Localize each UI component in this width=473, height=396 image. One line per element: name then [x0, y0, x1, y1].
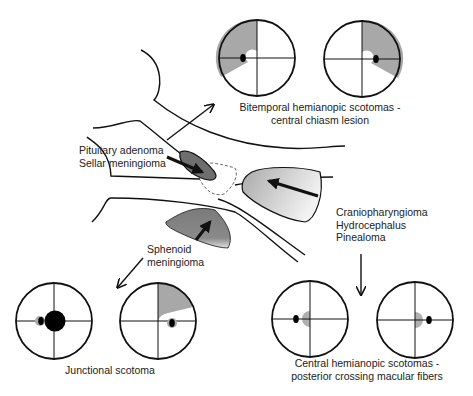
visual-field-diagram: Bitemporal hemianopic scotomas - central… — [0, 0, 473, 396]
sphenoid-label-line1: Sphenoid — [147, 243, 204, 256]
arrow-to-bitemporal — [167, 105, 213, 140]
cranio-label-line1: Craniopharyngioma — [336, 206, 428, 219]
visual-field-top-left — [216, 20, 295, 96]
central-caption-line1: Central hemianopic scotomas - — [272, 357, 462, 370]
visual-field-central-right — [377, 282, 453, 358]
sphenoid-label: Sphenoid meningioma — [147, 243, 204, 268]
diagram-graphics — [0, 0, 473, 396]
arrow-to-junctional — [118, 258, 143, 287]
cranio-label-line3: Pinealoma — [336, 231, 428, 244]
central-caption: Central hemianopic scotomas - posterior … — [272, 357, 462, 382]
visual-field-junctional-left — [16, 283, 92, 359]
bitemporal-caption-line2: central chiasm lesion — [220, 114, 420, 127]
pituitary-label-line1: Pituitary adenoma — [79, 144, 166, 157]
pituitary-label-line2: Sellar meningioma — [79, 157, 166, 170]
visual-field-junctional-right — [120, 283, 196, 359]
sphenoid-label-line2: meningioma — [147, 256, 204, 269]
cranio-label: Craniopharyngioma Hydrocephalus Pinealom… — [336, 206, 428, 244]
cranio-label-line2: Hydrocephalus — [336, 219, 428, 232]
central-caption-line2: posterior crossing macular fibers — [272, 370, 462, 383]
junctional-caption: Junctional scotoma — [40, 364, 180, 377]
bitemporal-caption: Bitemporal hemianopic scotomas - central… — [220, 101, 420, 126]
visual-field-top-right — [324, 21, 403, 97]
pituitary-label: Pituitary adenoma Sellar meningioma — [79, 144, 166, 169]
bitemporal-caption-line1: Bitemporal hemianopic scotomas - — [220, 101, 420, 114]
visual-field-central-left — [272, 281, 348, 357]
